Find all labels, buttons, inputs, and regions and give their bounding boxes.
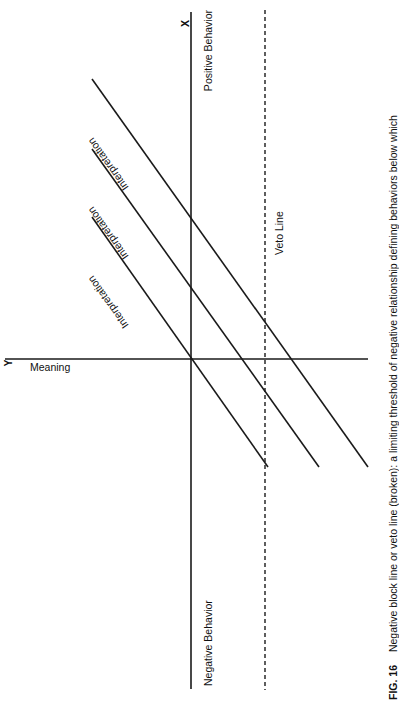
- negative-behavior-label: Negative Behavior: [202, 600, 214, 686]
- diagram-canvas: X Positive Behavior Negative Behavior Y …: [0, 0, 399, 701]
- interpretation-line-2: [92, 149, 319, 467]
- veto-line-label: Veto Line: [273, 211, 285, 255]
- interpretation-line-3: [92, 79, 368, 467]
- meaning-label: Meaning: [30, 361, 70, 373]
- caption-figure-number: FIG. 16: [387, 665, 399, 700]
- interpretation-label-2: Interpretation: [85, 205, 131, 262]
- svg-text:FIG. 16 Negative block: FIG. 16 Negative block line or veto line…: [387, 115, 399, 700]
- figure-caption: FIG. 16 Negative block line or veto line…: [387, 115, 399, 700]
- figure-page: X Positive Behavior Negative Behavior Y …: [0, 0, 399, 701]
- caption-text: Negative block line or veto line (broken…: [387, 115, 399, 652]
- x-axis-letter: X: [179, 20, 191, 27]
- y-axis-letter: Y: [2, 359, 14, 366]
- interpretation-label-1: Interpretation: [85, 136, 131, 193]
- interpretation-label-3: Interpretation: [85, 274, 131, 331]
- positive-behavior-label: Positive Behavior: [202, 9, 214, 91]
